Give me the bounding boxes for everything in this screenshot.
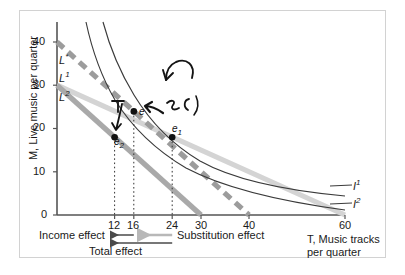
leader-line-I2 [330, 203, 352, 204]
y-tick-label-10: 10 [33, 165, 45, 177]
x-axis-title-line1: T, Music tracks [307, 233, 380, 245]
figure-container: M, Live music per quarter 40 30 20 10 0 … [0, 0, 405, 275]
budget-line-label-L-star: L* [59, 52, 68, 66]
x-tick-label-16: 16 [127, 219, 139, 231]
total-effect-label: Total effect [89, 245, 142, 257]
budget-line-label-L2: L2 [59, 89, 70, 103]
indifference-curve-label-I2: I2 [353, 196, 361, 210]
y-tick-label-20: 20 [33, 121, 45, 133]
point-label-e1: e1 [172, 123, 182, 137]
income-effect-label: Income effect [39, 229, 105, 241]
x-tick-label-60: 60 [339, 219, 351, 231]
x-axis-title-line2: per quarter [307, 246, 361, 258]
substitution-effect-label: Substitution effect [177, 229, 264, 241]
indifference-curve-label-I1: I1 [353, 178, 361, 192]
y-tick-label-30: 30 [33, 78, 45, 90]
pen-scribble-s-icon [167, 101, 179, 110]
y-tick-label-40: 40 [33, 35, 45, 47]
point-label-e2: e2 [114, 136, 124, 150]
x-tick-label-12: 12 [108, 219, 120, 231]
point-label-e-star: e* [139, 104, 148, 117]
budget-line-L1 [57, 85, 345, 215]
y-axis-title: M, Live music per quarter [27, 28, 39, 168]
pen-scribble-tail-icon [194, 96, 198, 115]
pen-scribble-c-icon [185, 99, 189, 110]
budget-line-label-L1: L1 [59, 70, 70, 84]
y-tick-label-0: 0 [41, 208, 47, 220]
point-e-star [131, 108, 138, 115]
leader-line-I1 [330, 185, 352, 186]
